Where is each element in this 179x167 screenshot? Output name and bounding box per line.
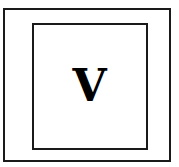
center-letter: V xyxy=(0,64,179,108)
